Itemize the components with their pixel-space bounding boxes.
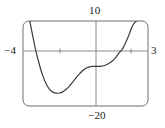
curve: [30, 21, 137, 93]
plot-canvas: [0, 0, 165, 128]
axis-label-bottom: −20: [88, 110, 106, 121]
axis-label-top: 10: [89, 5, 100, 16]
axis-label-right: 3: [151, 45, 157, 56]
graph-figure: 10 −20 −4 3: [0, 0, 165, 128]
axis-label-left: −4: [4, 45, 16, 56]
